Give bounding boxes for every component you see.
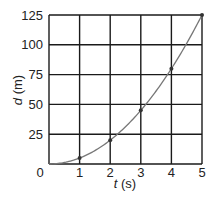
data-point <box>200 13 204 17</box>
x-tick-label: 3 <box>137 165 144 180</box>
y-tick-label: 125 <box>21 8 43 23</box>
x-tick-label: 4 <box>168 165 175 180</box>
x-tick-label: 2 <box>107 165 114 180</box>
x-axis-label: t (s) <box>114 176 136 191</box>
data-point <box>169 67 173 71</box>
x-tick-label: 5 <box>198 165 205 180</box>
data-point <box>108 138 112 142</box>
data-point <box>139 108 143 112</box>
y-tick-label: 50 <box>29 97 43 112</box>
grid <box>49 15 202 164</box>
y-tick-label: 75 <box>29 67 43 82</box>
y-axis-label: d (m) <box>10 75 25 105</box>
data-point <box>78 156 82 160</box>
x-tick-label: 0 <box>36 165 43 180</box>
y-tick-label: 100 <box>21 37 43 52</box>
x-tick-label: 1 <box>76 165 83 180</box>
data-curve <box>49 15 202 164</box>
y-tick-labels: 255075100125 <box>21 8 43 142</box>
chart: 012345 255075100125 t (s) d (m) <box>0 0 215 203</box>
y-tick-label: 25 <box>29 127 43 142</box>
